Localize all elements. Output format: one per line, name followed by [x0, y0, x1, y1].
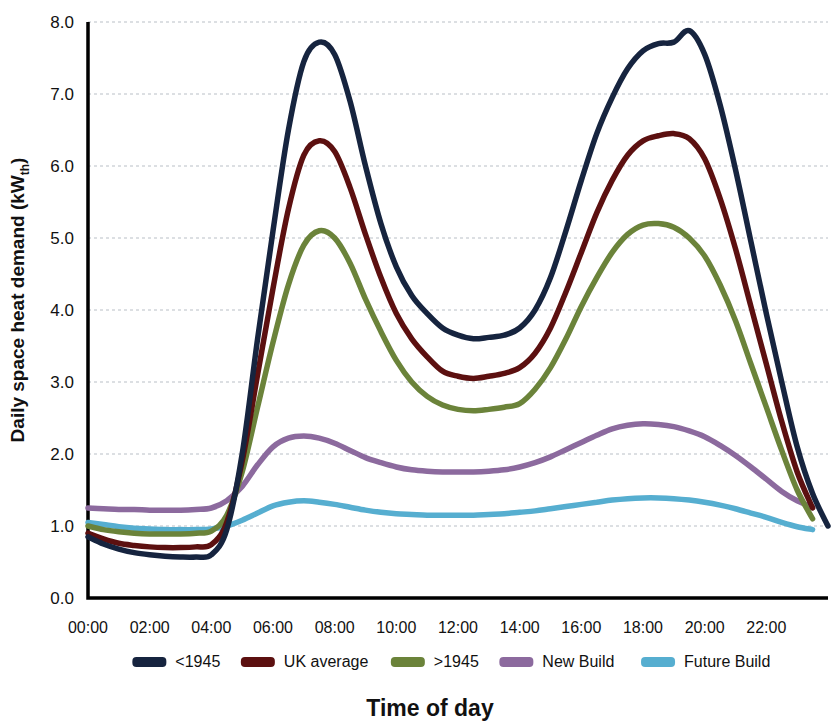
chart-container: 0.01.02.03.04.05.06.07.08.0 00:0002:0004… [0, 0, 835, 728]
x-tick-label: 04:00 [191, 619, 231, 636]
series-lines [88, 30, 828, 557]
x-tick-label: 12:00 [438, 619, 478, 636]
legend-item: UK average [241, 653, 369, 670]
y-axis-title: Daily space heat demand (kWth) [7, 158, 32, 443]
legend-label: >1945 [434, 653, 479, 670]
y-tick-label: 4.0 [50, 301, 74, 320]
x-tick-label: 10:00 [376, 619, 416, 636]
x-tick-label: 16:00 [561, 619, 601, 636]
x-tick-label: 06:00 [253, 619, 293, 636]
y-tick-label: 6.0 [50, 157, 74, 176]
legend-swatch [241, 657, 275, 667]
legend-label: UK average [284, 653, 369, 670]
legend-swatch [132, 657, 166, 667]
chart-legend: <1945UK average>1945New BuildFuture Buil… [132, 653, 770, 670]
y-tick-label: 1.0 [50, 517, 74, 536]
y-tick-label: 0.0 [50, 589, 74, 608]
x-axis-title: Time of day [366, 695, 494, 721]
x-tick-label: 02:00 [130, 619, 170, 636]
legend-item: >1945 [391, 653, 479, 670]
legend-item: <1945 [132, 653, 220, 670]
y-tick-label: 7.0 [50, 85, 74, 104]
series-line [88, 223, 813, 534]
x-tick-label: 14:00 [500, 619, 540, 636]
x-tick-label: 18:00 [623, 619, 663, 636]
legend-label: <1945 [175, 653, 220, 670]
legend-swatch [391, 657, 425, 667]
series-line [88, 424, 813, 510]
line-chart: 0.01.02.03.04.05.06.07.08.0 00:0002:0004… [0, 0, 835, 728]
y-axis-ticks: 0.01.02.03.04.05.06.07.08.0 [50, 13, 74, 608]
legend-label: Future Build [684, 653, 770, 670]
x-tick-label: 22:00 [746, 619, 786, 636]
legend-swatch [499, 657, 533, 667]
legend-item: New Build [499, 653, 614, 670]
y-tick-label: 8.0 [50, 13, 74, 32]
series-line [88, 30, 828, 557]
legend-item: Future Build [641, 653, 770, 670]
x-axis-ticks: 00:0002:0004:0006:0008:0010:0012:0014:00… [68, 619, 786, 636]
series-line [88, 134, 813, 548]
y-tick-label: 5.0 [50, 229, 74, 248]
y-tick-label: 2.0 [50, 445, 74, 464]
legend-swatch [641, 657, 675, 667]
x-tick-label: 00:00 [68, 619, 108, 636]
y-tick-label: 3.0 [50, 373, 74, 392]
x-tick-label: 08:00 [315, 619, 355, 636]
legend-label: New Build [542, 653, 614, 670]
series-line [88, 498, 813, 530]
x-tick-label: 20:00 [685, 619, 725, 636]
